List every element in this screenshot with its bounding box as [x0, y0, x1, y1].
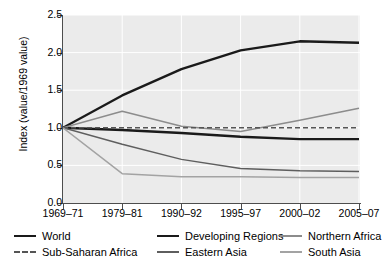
legend-entry-northern-africa: Northern Africa: [280, 228, 381, 244]
x-tick-label: 2005–07: [330, 208, 388, 219]
plot-area: [63, 15, 360, 203]
legend-label-south-asia: South Asia: [308, 246, 361, 258]
data-series-group: [63, 41, 359, 177]
x-axis-line: [62, 203, 361, 204]
x-tick-label: 1969–71: [34, 208, 92, 219]
y-axis-line: [62, 15, 63, 204]
legend-entry-south-asia: South Asia: [280, 244, 361, 260]
x-tick-label: 1979–81: [93, 208, 151, 219]
legend-label-sub-saharan-africa: Sub-Saharan Africa: [42, 246, 137, 258]
x-tick-label: 1995–97: [212, 208, 270, 219]
x-tick-label: 1990–92: [152, 208, 210, 219]
legend-entry-sub-saharan-africa: Sub-Saharan Africa: [14, 244, 137, 260]
legend-entry-eastern-asia: Eastern Asia: [157, 244, 247, 260]
y-axis-title: Index (value/1969 value): [17, 14, 29, 174]
legend-entry-world: World: [14, 228, 71, 244]
legend-row-1: World Developing Regions Northern Africa: [14, 228, 380, 244]
legend-swatch-sub-saharan-africa: [14, 251, 36, 253]
legend-entry-developing-regions: Developing Regions: [157, 228, 283, 244]
legend-swatch-northern-africa: [280, 235, 302, 237]
legend-label-northern-africa: Northern Africa: [308, 230, 381, 242]
legend-swatch-developing-regions: [157, 235, 179, 237]
chart-legend: World Developing Regions Northern Africa…: [14, 228, 380, 260]
legend-swatch-south-asia: [280, 251, 302, 253]
x-tick-label: 2000–02: [271, 208, 329, 219]
legend-swatch-eastern-asia: [157, 251, 179, 253]
legend-label-eastern-asia: Eastern Asia: [185, 246, 247, 258]
legend-swatch-world: [14, 235, 36, 237]
legend-label-world: World: [42, 230, 71, 242]
legend-label-developing-regions: Developing Regions: [185, 230, 283, 242]
chart-figure: 0.00.51.01.52.02.5 1969–711979–811990–92…: [0, 0, 388, 266]
gridlines: [63, 15, 360, 203]
plot-svg: [63, 15, 360, 203]
legend-row-2: Sub-Saharan Africa Eastern Asia South As…: [14, 244, 380, 260]
y-tick-label: 0.0: [22, 197, 62, 207]
